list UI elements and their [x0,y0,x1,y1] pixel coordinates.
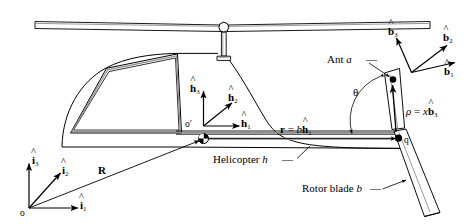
main-rotor-blade [35,22,430,32]
point-label-o: o [20,209,25,219]
vector-label-r: r = b^h1 [280,124,312,135]
point-o-prime-marker [199,134,209,144]
helicopter-kinematics-figure: ^i3 ^i2 ^i1 o ^h3 ^h2 ^h1 o′ ^b3 ^b2 ^b1… [0,0,467,224]
rotor-hub [219,22,229,32]
rotor-mast [217,32,231,60]
annotation-helicopter-dash: — [282,154,293,165]
point-q-marker [395,135,402,142]
axis-label-b1: ^b1 [444,66,454,77]
axis-label-i3: ^i3 [32,155,38,166]
axis-label-b2: ^b2 [443,32,453,43]
axis-label-h1: ^h1 [241,118,251,129]
annotation-rotor-blade: Rotor blade b [302,183,362,194]
cabin-window [71,54,182,133]
annotation-rotor-blade-dash: — [370,183,381,194]
point-label-q: q [404,136,409,146]
point-label-o-prime: o′ [185,120,192,130]
axis-label-h2: ^h2 [228,92,238,103]
vector-label-R: R [98,165,106,176]
ant-marker [390,76,397,83]
axis-label-b3: ^b3 [388,26,398,37]
vector-R [29,141,200,208]
leader-rotor-blade [383,180,407,189]
axis-label-h3: ^h3 [190,83,200,94]
annotation-ant: Ant a [327,54,352,65]
inertial-frame-triad [29,164,78,209]
annotation-helicopter: Helicopter h [213,154,268,165]
vector-label-rho: ρ = x^b3 [406,106,437,117]
leader-ant [369,63,390,77]
axis-label-i1: ^i1 [80,200,86,211]
angle-label-theta: θ [353,87,358,98]
annotation-ant-dash: — [366,54,377,65]
axis-label-i2: ^i2 [62,165,68,176]
